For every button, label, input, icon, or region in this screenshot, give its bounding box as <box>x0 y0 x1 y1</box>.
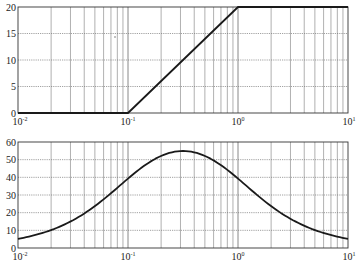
x-tick-label: 10-2 <box>13 251 28 262</box>
y-tick-label: 10 <box>6 55 16 66</box>
x-tick-label: 10-1 <box>121 251 136 262</box>
x-tick-label: 101 <box>343 251 356 262</box>
phase-plot: 010203040506010-210-1100101 <box>6 137 356 263</box>
x-tick-label: 10-1 <box>121 116 136 127</box>
y-tick-label: 5 <box>11 81 16 92</box>
x-tick-label: 100 <box>232 116 245 127</box>
y-tick-label: 10 <box>6 225 16 236</box>
magnitude-plot: 0510152010-210-1100101 <box>6 2 356 128</box>
x-tick-label: 101 <box>343 116 356 127</box>
y-tick-label: 30 <box>6 190 16 201</box>
x-tick-label: 100 <box>232 251 245 262</box>
y-tick-label: 15 <box>6 28 16 39</box>
bode-plot-figure: 0510152010-210-1100101 010203040506010-2… <box>0 0 356 272</box>
stray-dot <box>114 36 115 37</box>
x-tick-label: 10-2 <box>13 116 28 127</box>
y-tick-label: 50 <box>6 154 16 165</box>
y-tick-label: 20 <box>6 2 16 13</box>
y-tick-label: 40 <box>6 172 16 183</box>
y-tick-label: 20 <box>6 207 16 218</box>
y-tick-label: 60 <box>6 137 16 148</box>
